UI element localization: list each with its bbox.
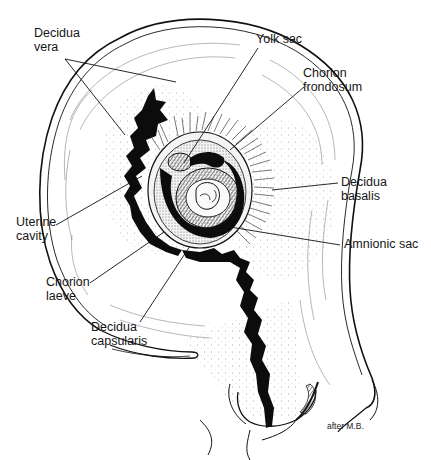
label-amnionic-sac: Amnionic sac: [344, 238, 418, 252]
label-decidua-capsularis: Decidua capsularis: [91, 321, 147, 348]
label-line-2: basalis: [341, 190, 387, 204]
label-line-1: Chorion: [303, 67, 362, 81]
label-line-2: frondosum: [303, 81, 362, 95]
uterus-gestational-sac-illustration: [0, 0, 431, 460]
label-chorion-frondosum: Chorion frondosum: [303, 67, 362, 94]
label-line-2: capsularis: [91, 335, 147, 349]
label-decidua-basalis: Decidua basalis: [341, 176, 387, 203]
label-chorion-laeve: Chorion laeve: [46, 276, 90, 303]
illustration-credit: after M.B.: [327, 421, 364, 431]
label-line-2: cavity: [16, 230, 56, 244]
label-line-1: Decidua: [341, 176, 387, 190]
label-decidua-vera: Decidua vera: [34, 27, 80, 54]
label-yolk-sac: Yolk sac: [256, 33, 302, 47]
label-line-2: vera: [34, 41, 80, 55]
label-uterine-cavity: Uterine cavity: [16, 216, 56, 243]
label-line-1: Decidua: [34, 27, 80, 41]
label-line-1: Chorion: [46, 276, 90, 290]
label-line-1: Uterine: [16, 216, 56, 230]
gestational-sac: [148, 132, 252, 248]
label-line-2: laeve: [46, 290, 90, 304]
label-line-1: Decidua: [91, 321, 147, 335]
